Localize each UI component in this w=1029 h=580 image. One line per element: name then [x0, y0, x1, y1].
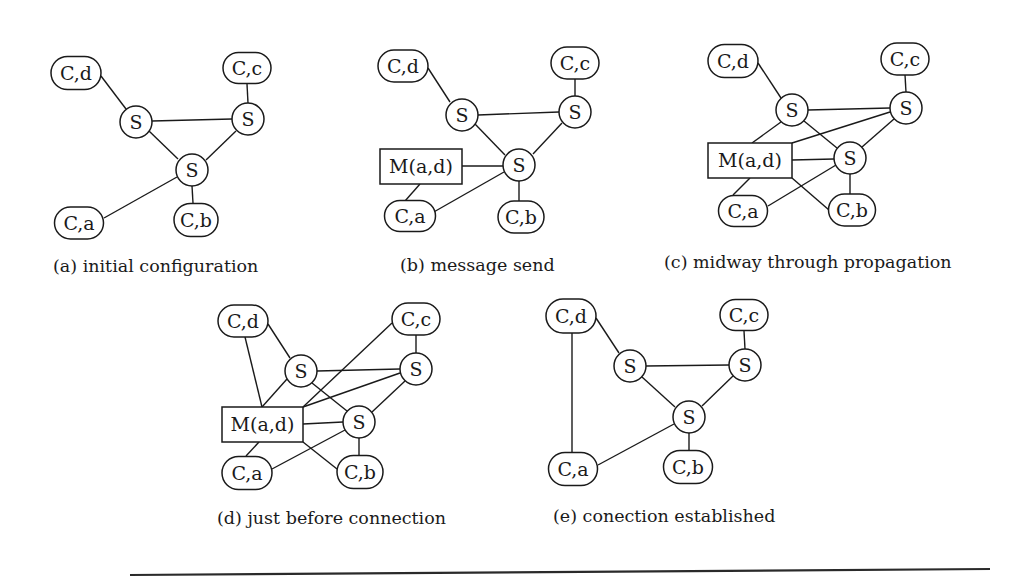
- edge: [733, 178, 750, 195]
- node-label: C,c: [232, 57, 263, 79]
- server-node: S: [343, 406, 375, 438]
- node-label: C,a: [394, 205, 425, 227]
- node-label: C,b: [672, 456, 704, 478]
- edge: [312, 383, 347, 411]
- client-node: C,b: [498, 201, 544, 233]
- edge: [246, 442, 259, 456]
- edge: [642, 377, 675, 407]
- node-label: M(a,d): [389, 155, 453, 177]
- edge: [533, 123, 562, 154]
- edge: [303, 373, 400, 407]
- node-label: C,d: [387, 55, 419, 77]
- node-label: C,a: [727, 200, 758, 222]
- edge: [804, 121, 837, 148]
- edge: [646, 365, 729, 366]
- edge: [101, 76, 126, 109]
- edge: [104, 177, 177, 218]
- edge: [317, 369, 400, 371]
- edge: [149, 131, 178, 159]
- panel-b: C,dC,cSSSM(a,d)C,aC,b(b) message send: [378, 47, 599, 275]
- edge: [192, 186, 193, 203]
- edge: [372, 381, 405, 412]
- horizontal-rule: [130, 569, 990, 575]
- server-node: S: [400, 353, 432, 385]
- edge: [862, 119, 894, 147]
- panel-c: C,dC,cSSSM(a,d)C,aC,b(c) midway through …: [664, 43, 952, 272]
- panel-caption: (c) midway through propagation: [664, 252, 952, 272]
- node-label: C,d: [717, 50, 749, 72]
- node-label: S: [294, 360, 307, 382]
- client-node: C,a: [222, 457, 272, 490]
- node-label: S: [241, 108, 254, 130]
- edge: [478, 112, 559, 115]
- network-connection-figure: C,dC,cSSSC,aC,b(a) initial configuration…: [0, 0, 1029, 580]
- node-label: S: [455, 104, 468, 126]
- node-label: S: [185, 159, 198, 181]
- server-node: S: [446, 99, 478, 131]
- server-node: S: [614, 350, 646, 382]
- edge: [596, 318, 619, 353]
- panel-c-edges: [733, 63, 906, 210]
- node-label: S: [682, 406, 695, 428]
- edge: [268, 324, 290, 358]
- client-node: C,a: [55, 207, 104, 239]
- node-label: C,a: [231, 462, 262, 484]
- client-node: C,a: [719, 196, 768, 227]
- client-node: C,d: [218, 305, 268, 337]
- client-node: C,c: [720, 300, 768, 331]
- panel-caption: (a) initial configuration: [53, 256, 258, 276]
- server-node: S: [729, 349, 761, 381]
- node-label: S: [899, 97, 912, 119]
- panel-a: C,dC,cSSSC,aC,b(a) initial configuration: [51, 53, 271, 277]
- edge: [245, 337, 262, 407]
- node-label: S: [843, 147, 856, 169]
- edge: [744, 331, 745, 349]
- node-label: S: [409, 358, 422, 380]
- edge: [303, 422, 343, 424]
- panel-caption: (e) conection established: [553, 506, 775, 526]
- edge: [702, 376, 733, 406]
- edge: [808, 108, 890, 110]
- edge: [428, 68, 450, 102]
- node-label: S: [785, 99, 798, 121]
- client-node: C,b: [337, 456, 383, 489]
- node-label: C,d: [227, 310, 259, 332]
- client-node: C,d: [51, 57, 101, 90]
- client-node: C,b: [829, 194, 876, 226]
- node-label: S: [352, 411, 365, 433]
- node-label: C,c: [560, 52, 591, 74]
- edge: [262, 379, 287, 407]
- panel-a-edges: [101, 76, 248, 218]
- client-node: C,d: [378, 50, 428, 82]
- server-node: S: [890, 92, 922, 124]
- client-node: C,d: [546, 299, 596, 333]
- edge: [475, 124, 505, 155]
- node-label: C,c: [401, 308, 432, 330]
- node-label: C,c: [729, 304, 760, 326]
- edge: [206, 131, 236, 160]
- server-node: S: [503, 149, 535, 181]
- server-node: S: [559, 96, 591, 128]
- edge: [247, 84, 248, 103]
- node-label: C,a: [63, 212, 94, 234]
- node-label: C,b: [505, 206, 537, 228]
- node-label: C,b: [180, 209, 212, 231]
- server-node: S: [834, 142, 866, 174]
- edge: [792, 178, 829, 210]
- edge: [792, 159, 834, 160]
- panel-b-edges: [405, 68, 575, 213]
- client-node: C,b: [174, 204, 218, 237]
- server-node: S: [120, 106, 152, 138]
- node-label: C,d: [60, 62, 92, 84]
- server-node: S: [176, 154, 208, 186]
- client-node: C,c: [881, 43, 929, 75]
- edge: [405, 184, 420, 201]
- client-node: C,a: [385, 201, 436, 232]
- node-label: S: [623, 355, 636, 377]
- node-label: C,b: [344, 461, 376, 483]
- client-node: C,a: [549, 453, 598, 486]
- edge: [152, 119, 232, 121]
- server-node: S: [232, 103, 264, 135]
- server-node: S: [776, 94, 808, 126]
- panel-d-edges: [245, 323, 416, 469]
